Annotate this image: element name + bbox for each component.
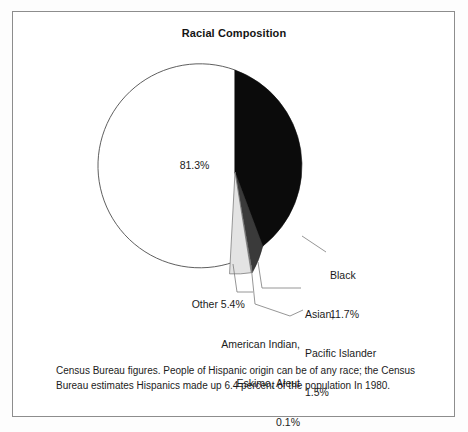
slice-label-american-indian-line1: American Indian, <box>187 338 300 351</box>
slice-label-american-indian-value: 0.1% <box>187 416 300 429</box>
figure-canvas: Racial Composition 81.3% Black 11.7% Asi… <box>0 0 468 432</box>
leader-line-black <box>302 236 326 252</box>
chart-footnote-line2: Bureau estimates Hispanics made up 6.4 p… <box>56 379 426 394</box>
slice-label-white-value: 81.3% <box>180 159 210 171</box>
slice-label-other-text: Other 5.4% <box>192 298 245 310</box>
slice-label-asian-line2: Pacific Islander <box>305 347 376 360</box>
chart-footnote-line1: Census Bureau figures. People of Hispani… <box>56 364 426 379</box>
slice-label-black-name: Black <box>330 269 359 282</box>
leader-line-asian <box>258 262 301 288</box>
slice-label-asian-pacific-islander: Asian, Pacific Islander 1.5% <box>305 282 376 425</box>
chart-footnote: Census Bureau figures. People of Hispani… <box>56 364 426 393</box>
slice-label-asian-line1: Asian, <box>305 308 376 321</box>
slice-label-white: 81.3% <box>168 146 209 185</box>
leader-line-american-indian <box>251 265 303 316</box>
